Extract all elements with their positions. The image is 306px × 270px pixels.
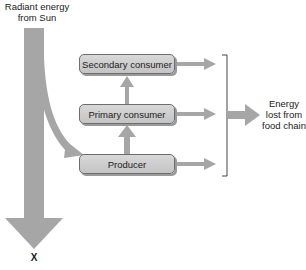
- secondary-consumer-label: Secondary consumer: [82, 59, 172, 70]
- energy-lost-line1: Energy: [262, 98, 306, 109]
- producer-label: Producer: [108, 159, 147, 170]
- primary-consumer-box: Primary consumer: [79, 104, 175, 124]
- main-energy-arrow: [5, 28, 63, 249]
- primary-loss-arrow: [177, 108, 216, 120]
- primary-to-secondary-arrow: [120, 76, 134, 104]
- primary-consumer-label: Primary consumer: [88, 109, 165, 120]
- producer-to-primary-arrow: [118, 125, 136, 154]
- secondary-consumer-box: Secondary consumer: [79, 54, 175, 74]
- energy-lost-line3: food chain: [262, 120, 306, 131]
- sink-x-label: X: [26, 252, 42, 263]
- total-loss-arrow: [228, 104, 260, 126]
- energy-lost-line2: lost from: [262, 109, 306, 120]
- secondary-loss-arrow: [177, 58, 216, 70]
- producer-loss-arrow: [177, 158, 216, 170]
- energy-lost-label: Energy lost from food chain: [262, 98, 306, 131]
- producer-box: Producer: [79, 154, 175, 174]
- loss-bracket: [222, 55, 227, 176]
- energy-flow-arrows: [0, 0, 306, 270]
